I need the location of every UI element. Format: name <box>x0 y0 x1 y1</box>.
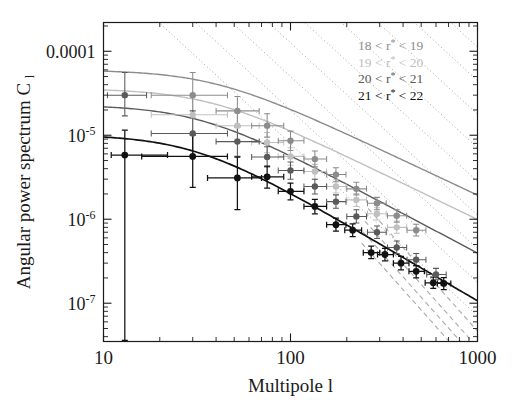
data-point <box>312 183 318 189</box>
data-point <box>264 139 270 145</box>
data-point <box>382 251 389 258</box>
data-point <box>394 244 400 250</box>
data-point <box>189 153 196 160</box>
data-point <box>374 211 380 217</box>
data-point <box>374 200 380 206</box>
x-tick-label: 10 <box>94 347 113 368</box>
x-tick-label: 1000 <box>459 347 497 368</box>
data-point <box>311 203 318 210</box>
data-point <box>413 268 420 275</box>
x-tick-label: 100 <box>276 347 305 368</box>
data-point <box>190 112 196 118</box>
data-point <box>264 122 270 128</box>
data-point <box>333 171 339 177</box>
data-point <box>368 249 375 256</box>
data-point <box>440 280 447 287</box>
data-point <box>190 130 196 136</box>
data-point <box>234 138 240 144</box>
data-point <box>287 138 293 144</box>
data-point <box>287 167 293 173</box>
data-point <box>353 186 359 192</box>
data-point <box>394 213 400 219</box>
data-point <box>190 92 196 98</box>
data-point <box>333 183 339 189</box>
data-point <box>413 227 419 233</box>
data-point <box>398 260 405 267</box>
data-point <box>430 279 437 286</box>
data-point <box>433 271 439 277</box>
data-point <box>287 188 294 195</box>
data-point <box>312 168 318 174</box>
data-point <box>234 175 241 182</box>
data-point <box>122 92 128 98</box>
data-point <box>312 156 318 162</box>
y-tick-label: 0.0001 <box>46 42 96 62</box>
data-point <box>353 197 359 203</box>
data-point <box>333 221 340 228</box>
data-point <box>353 213 359 219</box>
data-point <box>234 108 240 114</box>
chart-canvas: 1010010000.000110-510-610-7 18 < r* < 19… <box>0 0 512 404</box>
data-point <box>394 224 400 230</box>
data-point <box>121 152 128 159</box>
data-point <box>374 229 380 235</box>
y-axis-title: Angular power spectrum C l <box>13 74 37 289</box>
data-point <box>349 227 356 234</box>
figure-container: 1010010000.000110-510-610-7 18 < r* < 19… <box>0 0 512 404</box>
data-point <box>264 154 270 160</box>
data-point <box>264 173 271 180</box>
data-point <box>333 198 339 204</box>
data-point <box>287 153 293 159</box>
data-point <box>234 122 240 128</box>
data-point <box>413 256 419 262</box>
x-axis-title: Multipole l <box>248 375 333 396</box>
